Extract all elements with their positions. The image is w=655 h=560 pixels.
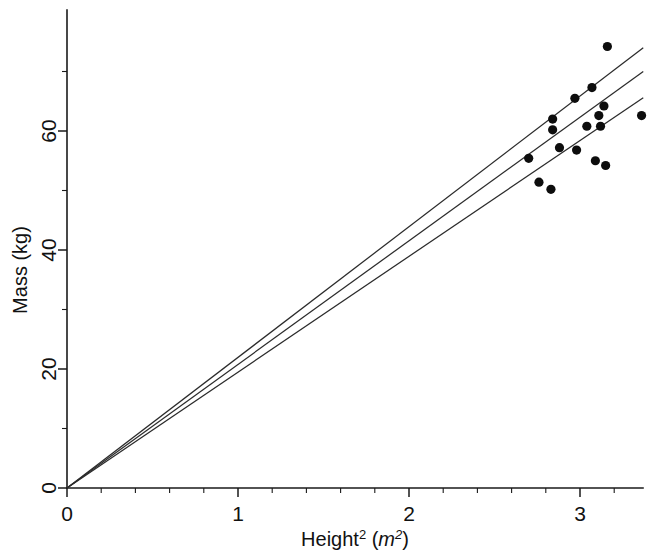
data-point [599,101,608,110]
data-point [555,143,564,152]
data-point [601,161,610,170]
data-point [596,122,605,131]
data-point [534,178,543,187]
regression-line-lower-band [67,98,643,488]
data-point [546,185,555,194]
x-tick-label: 3 [574,502,586,525]
x-axis-title-unit-close: ) [402,528,409,550]
data-point [603,42,612,51]
data-point [594,111,603,120]
data-point [637,111,646,120]
x-axis-title-base: Height [301,528,359,550]
data-point [591,156,600,165]
data-point [582,122,591,131]
data-point [587,83,596,92]
y-tick-label: 60 [37,119,60,142]
x-tick-label: 0 [61,502,73,525]
y-axis-title: Mass (kg) [9,226,31,314]
data-point [548,115,557,124]
y-tick-label: 40 [37,238,60,261]
y-axis-tick-labels: 0 20 40 60 [37,119,60,494]
x-axis-major-ticks [67,488,580,497]
axes-group [67,10,643,488]
x-tick-label: 1 [232,502,244,525]
x-axis-title: Height2 (m2) [301,527,409,550]
regression-line-fit-line [67,72,643,489]
y-tick-label: 20 [37,357,60,380]
x-tick-label: 2 [403,502,415,525]
x-axis-title-base-exponent: 2 [359,527,366,542]
data-point [548,125,557,134]
regression-lines-group [67,48,643,488]
scatter-plot-figure: 0 1 2 3 0 20 40 60 Mass (kg) Height2 (m2… [0,0,655,560]
data-point [524,154,533,163]
data-point [572,145,581,154]
y-tick-label: 0 [37,482,60,494]
data-point [570,94,579,103]
data-points-group [524,42,646,194]
x-axis-title-unit: m [378,528,395,550]
x-axis-tick-labels: 0 1 2 3 [61,502,586,525]
plot-canvas: 0 1 2 3 0 20 40 60 Mass (kg) Height2 (m2… [0,0,655,560]
x-axis-title-unit-open: ( [366,528,379,550]
regression-line-upper-band [67,48,643,488]
